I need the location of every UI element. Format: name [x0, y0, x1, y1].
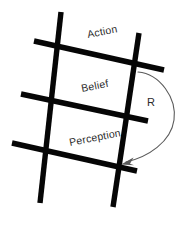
diagram-canvas: Action Belief Perception R [0, 0, 182, 231]
edge-label-r: R [147, 96, 155, 108]
hierarchy-diagram: Action Belief Perception R [0, 0, 182, 231]
